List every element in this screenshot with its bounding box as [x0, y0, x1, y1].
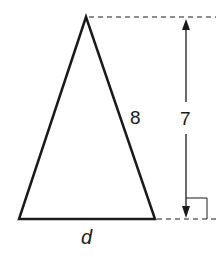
arrow-up-icon: [182, 19, 190, 30]
arrow-down-icon: [182, 206, 190, 218]
side-length-label: 8: [130, 107, 141, 128]
height-label: 7: [180, 108, 191, 129]
triangle-diagram: 8 7 d: [0, 0, 224, 257]
base-label: d: [81, 226, 93, 248]
